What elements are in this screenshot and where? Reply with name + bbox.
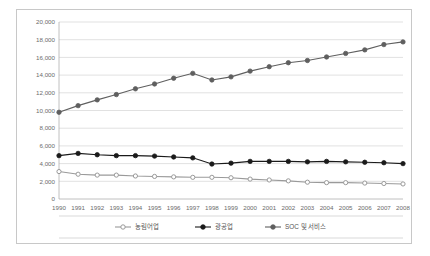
data-point-marker [57,110,61,114]
data-point-marker [324,55,328,59]
data-point-marker [401,40,405,44]
data-point-marker [95,98,99,102]
data-point-marker [114,173,118,177]
data-point-marker [191,156,195,160]
data-point-marker [114,92,118,96]
x-axis-tick-label: 2005 [339,204,353,211]
data-point-marker [229,75,233,79]
data-point-marker [363,181,367,185]
data-point-marker [382,181,386,185]
data-point-marker [210,78,214,82]
data-point-marker [344,181,348,185]
data-point-marker [267,64,271,68]
legend-label: 광공업 [215,223,233,230]
y-axis-tick-label: 18,000 [36,36,55,43]
data-point-marker [133,174,137,178]
legend-marker [271,225,276,230]
x-axis-tick-label: 1999 [224,204,238,211]
data-point-marker [363,160,367,164]
x-axis-tick-label: 2003 [301,204,315,211]
x-axis-tick-label: 1995 [148,204,162,211]
data-point-marker [76,103,80,107]
legend-item[interactable]: 농림어업 [115,222,159,231]
x-axis-tick-label: 2007 [377,204,391,211]
y-axis-tick-label: 16,000 [36,54,55,61]
series-group [57,40,405,115]
legend-label: 농림어업 [135,222,159,231]
data-point-marker [382,42,386,46]
data-point-marker [248,69,252,73]
data-point-marker [401,182,405,186]
y-axis-tick-label: 14,000 [36,71,55,78]
legend-marker [201,225,206,230]
data-point-marker [76,172,80,176]
data-point-marker [363,48,367,52]
x-axis-tick-label: 2001 [262,204,276,211]
legend-item[interactable]: 광공업 [195,223,233,230]
y-axis-tick-label: 8,000 [40,124,56,131]
y-axis-tick-label: 6,000 [40,142,56,149]
data-point-marker [401,161,405,165]
data-point-marker [171,155,175,159]
data-point-marker [305,180,309,184]
data-point-marker [171,76,175,80]
data-point-marker [343,51,347,55]
x-axis-tick-label: 1993 [109,204,123,211]
chart-plot-area: 02,0004,0006,0008,00010,00012,00014,0001… [17,10,413,245]
data-point-marker [133,153,137,157]
y-axis-tick-label: 0 [52,195,56,202]
x-axis-tick-label: 2006 [358,204,372,211]
data-point-marker [152,174,156,178]
data-point-marker [267,159,271,163]
x-axis-tick-label: 1994 [129,204,143,211]
data-point-marker [133,87,137,91]
data-point-marker [343,160,347,164]
x-axis-tick-label: 1992 [90,204,104,211]
y-axis-tick-label: 2,000 [40,178,56,185]
y-axis-tick-label: 20,000 [36,18,55,25]
data-point-marker [305,160,309,164]
legend-item[interactable]: SOC 및 서비스 [265,222,326,231]
x-axis-tick-label: 2008 [396,204,410,211]
data-point-marker [152,154,156,158]
line-chart: 02,0004,0006,0008,00010,00012,00014,0001… [17,10,413,245]
y-axis-tick-label: 12,000 [36,89,55,96]
data-point-marker [57,153,61,157]
data-point-marker [324,181,328,185]
data-point-marker [76,151,80,155]
data-point-marker [229,176,233,180]
series-group [57,169,405,186]
x-axis-tick-label: 2002 [281,204,295,211]
data-point-marker [210,162,214,166]
y-axis-tick-label: 4,000 [40,160,56,167]
data-point-marker [191,175,195,179]
data-point-marker [114,153,118,157]
x-axis-tick-label: 1998 [205,204,219,211]
x-axis-tick-label: 1991 [71,204,85,211]
data-point-marker [248,159,252,163]
data-point-marker [210,175,214,179]
data-point-marker [229,161,233,165]
data-point-marker [248,177,252,181]
x-axis-tick-label: 1997 [186,204,200,211]
chart-container: 02,0004,0006,0008,00010,00012,00014,0001… [16,9,412,244]
data-point-marker [324,159,328,163]
y-axis-tick-label: 10,000 [36,107,55,114]
series-group [57,151,405,166]
data-point-marker [286,61,290,65]
x-axis-tick-label: 2000 [243,204,257,211]
data-point-marker [172,175,176,179]
data-point-marker [286,179,290,183]
legend-marker [121,225,125,229]
data-point-marker [95,153,99,157]
x-axis-tick-label: 1990 [52,204,66,211]
x-axis-tick-label: 2004 [320,204,334,211]
data-point-marker [95,173,99,177]
data-point-marker [267,178,271,182]
data-point-marker [152,82,156,86]
data-point-marker [286,159,290,163]
x-axis-tick-label: 1996 [167,204,181,211]
data-point-marker [191,71,195,75]
legend-label: SOC 및 서비스 [285,222,326,231]
data-point-marker [382,161,386,165]
